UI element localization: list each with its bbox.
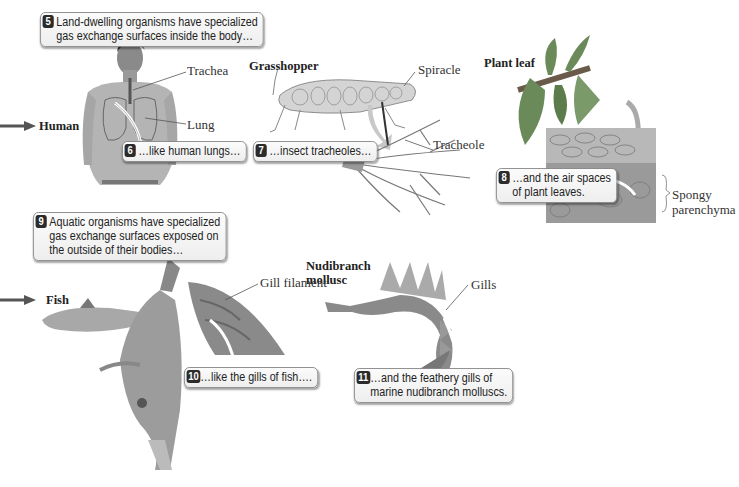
callout-text-line: the outside of their bodies… (49, 243, 220, 257)
spongy-parenchyma-line-2: parenchyma (672, 202, 736, 217)
callout-11: 11 …and the feathery gills of marine nud… (354, 368, 513, 403)
callout-text-line: of plant leaves. (512, 185, 611, 199)
callout-text-line: gas exchange surfaces inside the body… (56, 29, 257, 43)
callout-text-line: …and the air spaces (512, 171, 611, 185)
spiracle-label: Spiracle (418, 62, 461, 78)
callout-number-badge: 5 (43, 15, 54, 28)
trachea-label: Trachea (187, 63, 228, 79)
callout-text-line: …insect tracheoles… (269, 144, 371, 158)
callout-number-badge: 8 (499, 171, 510, 184)
callout-text-line: Aquatic organisms have specialized (49, 215, 220, 229)
callout-10: 10 …like the gills of fish…. (184, 367, 318, 388)
callout-text-line: gas exchange surfaces exposed on (49, 229, 220, 243)
callout-5: 5 Land-dwelling organisms have specializ… (40, 12, 264, 47)
callout-number-badge: 7 (256, 144, 267, 157)
callout-text-line: Land-dwelling organisms have specialized (56, 15, 257, 29)
grasshopper-label: Grasshopper (249, 59, 318, 73)
callout-number-badge: 9 (36, 215, 47, 228)
human-label: Human (39, 119, 79, 133)
callout-9: 9 Aquatic organisms have specialized gas… (33, 212, 226, 261)
fish-label: Fish (46, 293, 69, 307)
callout-text-line: …like the gills of fish…. (200, 370, 312, 384)
callout-8: 8 …and the air spaces of plant leaves. (496, 168, 617, 203)
spongy-parenchyma-line-1: Spongy (672, 187, 736, 202)
spongy-parenchyma-label: Spongy parenchyma (672, 187, 736, 217)
nudibranch-label-line-1: Nudibranch (306, 259, 371, 273)
lung-label: Lung (187, 117, 214, 133)
callout-text-line: marine nudibranch molluscs. (370, 385, 507, 399)
callout-text-line: …like human lungs… (138, 144, 240, 158)
tracheole-label: Tracheole (433, 137, 485, 153)
callout-text-line: …and the feathery gills of (370, 371, 507, 385)
callout-number-badge: 10 (187, 370, 201, 383)
callout-7: 7 …insect tracheoles… (253, 141, 378, 162)
callout-number-badge: 11 (357, 371, 370, 384)
gill-filament-label: Gill filament (260, 275, 327, 291)
callout-number-badge: 6 (125, 144, 136, 157)
callout-6: 6 …like human lungs… (122, 141, 247, 162)
plant-leaf-label: Plant leaf (484, 56, 535, 70)
gills-label: Gills (471, 277, 496, 293)
